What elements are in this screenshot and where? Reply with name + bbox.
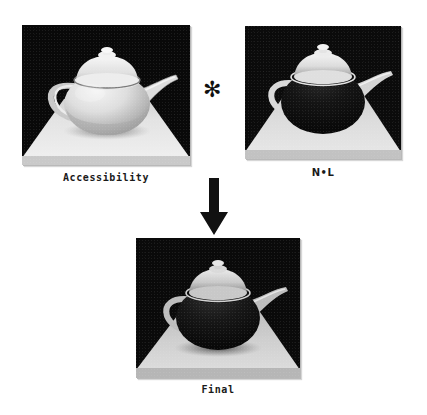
panel-accessibility[interactable] — [22, 25, 190, 165]
teapot-render-accessibility-svg — [22, 25, 190, 165]
multiply-operator: ✻ — [203, 79, 221, 101]
figure-root: Accessibility ✻ — [0, 0, 427, 415]
panel-caption-accessibility: Accessibility — [22, 172, 190, 183]
teapot-render-final-svg — [136, 238, 300, 378]
panel-n-dot-l[interactable] — [245, 26, 401, 159]
teapot-render-icon — [136, 238, 300, 378]
teapot-render-ndotl-svg — [245, 26, 401, 159]
panel-final[interactable] — [136, 238, 300, 378]
teapot-render-icon — [22, 25, 190, 165]
panel-caption-final: Final — [136, 384, 300, 395]
teapot-render-icon — [245, 26, 401, 159]
down-arrow — [198, 178, 230, 236]
panel-caption-n-dot-l: N•L — [245, 167, 401, 178]
down-arrow-icon — [198, 178, 230, 236]
